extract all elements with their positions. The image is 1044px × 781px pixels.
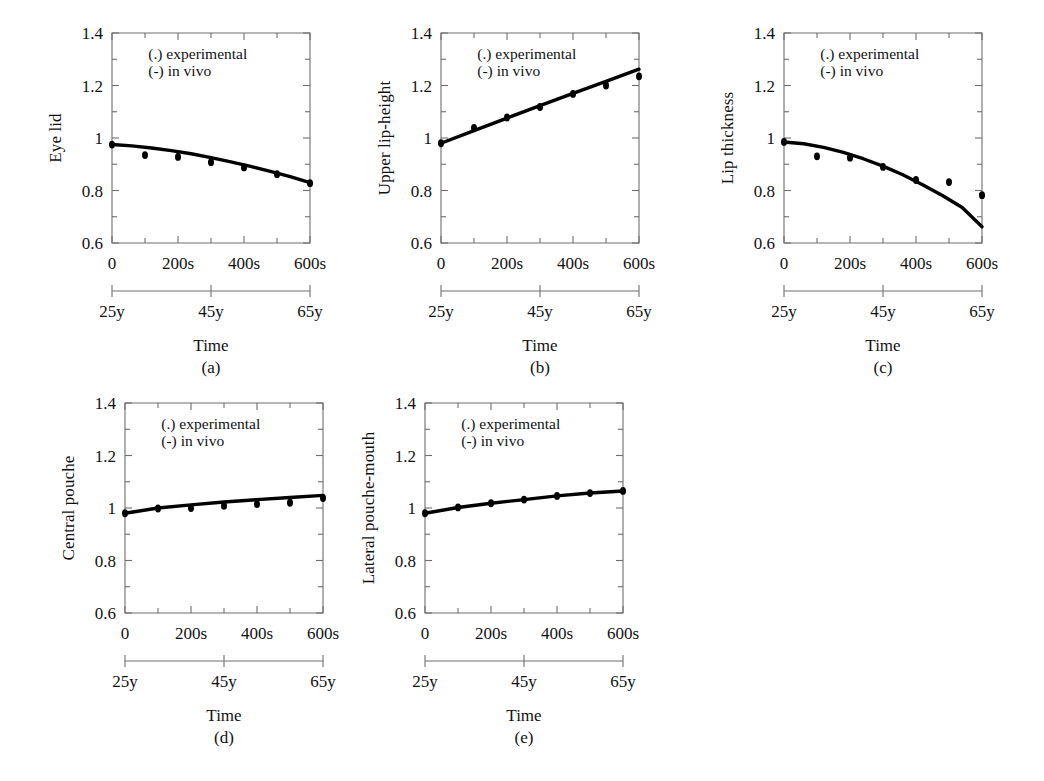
legend-experimental: (.) experimental: [477, 45, 576, 63]
legend-in-vivo: (-) in vivo: [477, 62, 540, 80]
x-tick-label-3: 600s: [607, 624, 639, 643]
data-point: [814, 152, 820, 160]
data-point: [946, 178, 952, 186]
x-tick-label-2: 400s: [541, 624, 573, 643]
age-tick-label-0: 25y: [771, 302, 797, 321]
data-point: [620, 487, 626, 495]
x-tick-label-1: 200s: [834, 254, 866, 273]
y-tick-label-3: 1.2: [82, 77, 103, 96]
y-tick-label-2: 1: [767, 129, 776, 148]
x-axis-label-b: Time: [440, 335, 640, 357]
y-tick-label-1: 0.8: [95, 552, 116, 571]
x-tick-label-0: 0: [108, 254, 117, 273]
y-tick-label-0: 0.6: [411, 234, 432, 253]
data-point: [554, 492, 560, 500]
data-point: [320, 494, 326, 502]
x-tick-label-1: 200s: [162, 254, 194, 273]
chart-panel-b: 0.60.811.21.40200s400s600s25y45y65y(.) e…: [383, 19, 679, 361]
legend-in-vivo: (-) in vivo: [161, 432, 224, 450]
y-tick-label-2: 1: [424, 129, 433, 148]
y-tick-label-0: 0.6: [754, 234, 775, 253]
data-point: [537, 103, 543, 111]
x-tick-label-2: 400s: [241, 624, 273, 643]
data-point: [254, 500, 260, 508]
data-point: [175, 153, 181, 161]
legend-experimental: (.) experimental: [161, 415, 260, 433]
panel-caption-c: Time(c): [783, 335, 983, 379]
age-tick-label-2: 65y: [626, 302, 652, 321]
panel-letter-b: (b): [440, 357, 640, 379]
y-axis-label-a: Eye lid: [46, 113, 66, 162]
data-point: [847, 154, 853, 162]
age-tick-label-1: 45y: [870, 302, 896, 321]
panel-letter-d: (d): [124, 727, 324, 749]
data-point: [142, 151, 148, 159]
age-tick-label-2: 65y: [969, 302, 995, 321]
data-point: [504, 114, 510, 122]
data-point: [570, 90, 576, 98]
data-point: [155, 505, 161, 513]
y-tick-label-4: 1.4: [411, 24, 433, 43]
data-point: [122, 509, 128, 517]
y-tick-label-2: 1: [408, 499, 417, 518]
age-tick-label-2: 65y: [310, 672, 336, 691]
x-tick-label-2: 400s: [900, 254, 932, 273]
data-point: [438, 139, 444, 147]
panel-letter-a: (a): [111, 357, 311, 379]
age-tick-label-0: 25y: [112, 672, 138, 691]
panel-caption-e: Time(e): [424, 705, 624, 749]
x-tick-label-2: 400s: [557, 254, 589, 273]
y-tick-label-0: 0.6: [95, 604, 116, 623]
y-tick-label-2: 1: [108, 499, 117, 518]
series-line-in-vivo: [784, 142, 982, 227]
legend-experimental: (.) experimental: [820, 45, 919, 63]
data-point: [603, 82, 609, 90]
x-tick-label-0: 0: [121, 624, 130, 643]
y-tick-label-0: 0.6: [82, 234, 103, 253]
chart-panel-c: 0.60.811.21.40200s400s600s25y45y65y(.) e…: [726, 19, 1022, 361]
data-point: [880, 163, 886, 171]
legend-in-vivo: (-) in vivo: [461, 432, 524, 450]
y-axis-label-e: Lateral pouche-mouth: [359, 432, 379, 585]
data-point: [287, 499, 293, 507]
data-point: [781, 138, 787, 146]
age-tick-label-0: 25y: [428, 302, 454, 321]
data-point: [188, 504, 194, 512]
y-tick-label-4: 1.4: [395, 394, 417, 413]
y-tick-label-3: 1.2: [411, 77, 432, 96]
data-point: [913, 176, 919, 184]
y-axis-label-d: Central pouche: [59, 456, 79, 561]
chart-panel-a: 0.60.811.21.40200s400s600s25y45y65y(.) e…: [54, 19, 350, 361]
data-point: [979, 191, 985, 199]
x-axis-label-e: Time: [424, 705, 624, 727]
y-tick-label-3: 1.2: [395, 447, 416, 466]
x-tick-label-2: 400s: [228, 254, 260, 273]
data-point: [636, 72, 642, 80]
y-tick-label-3: 1.2: [754, 77, 775, 96]
legend-experimental: (.) experimental: [461, 415, 560, 433]
age-tick-label-0: 25y: [412, 672, 438, 691]
data-point: [488, 499, 494, 507]
panel-letter-e: (e): [424, 727, 624, 749]
legend-in-vivo: (-) in vivo: [148, 62, 211, 80]
x-tick-label-0: 0: [780, 254, 789, 273]
x-tick-label-3: 600s: [966, 254, 998, 273]
x-tick-label-0: 0: [437, 254, 446, 273]
y-tick-label-0: 0.6: [395, 604, 416, 623]
x-tick-label-1: 200s: [175, 624, 207, 643]
data-point: [587, 489, 593, 497]
legend-experimental: (.) experimental: [148, 45, 247, 63]
y-axis-label-c: Lip thickness: [718, 92, 738, 184]
figure-canvas: 0.60.811.21.40200s400s600s25y45y65y(.) e…: [0, 0, 1044, 781]
data-point: [521, 496, 527, 504]
age-tick-label-1: 45y: [211, 672, 237, 691]
y-axis-label-b: Upper lip-height: [375, 81, 395, 195]
chart-panel-d: 0.60.811.21.40200s400s600s25y45y65y(.) e…: [67, 389, 363, 731]
y-tick-label-3: 1.2: [95, 447, 116, 466]
age-tick-label-1: 45y: [198, 302, 224, 321]
panel-letter-c: (c): [783, 357, 983, 379]
x-axis-label-c: Time: [783, 335, 983, 357]
y-tick-label-4: 1.4: [95, 394, 117, 413]
data-point: [455, 504, 461, 512]
data-point: [471, 124, 477, 132]
